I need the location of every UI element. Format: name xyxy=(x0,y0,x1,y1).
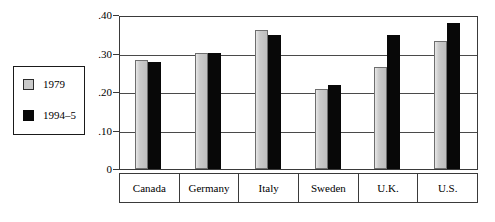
category-label-italy: Italy xyxy=(239,174,299,202)
y-axis-tick-label: 0 xyxy=(107,164,113,175)
legend-label-1994-5: 1994–5 xyxy=(43,110,76,121)
legend-swatch-1994-5 xyxy=(23,110,34,121)
category-label-sweden: Sweden xyxy=(299,174,359,202)
bar-italy-1979 xyxy=(255,30,268,169)
legend-item-1979: 1979 xyxy=(23,79,65,90)
legend-item-1994-5: 1994–5 xyxy=(23,110,76,121)
y-axis-tick-label: .40 xyxy=(98,10,112,21)
bar-sweden-1994-5 xyxy=(328,85,341,169)
bar-sweden-1979 xyxy=(315,89,328,169)
bar-canada-1994-5 xyxy=(148,62,161,169)
bar-group xyxy=(359,17,419,169)
bar-u-s--1979 xyxy=(434,41,447,169)
chart-legend: 1979 1994–5 xyxy=(13,66,85,135)
bar-germany-1979 xyxy=(195,53,208,169)
category-label-canada: Canada xyxy=(120,174,180,202)
category-label-u-s: U.S. xyxy=(418,174,477,202)
bar-group xyxy=(300,17,360,169)
bar-u-s--1994-5 xyxy=(447,23,460,169)
bar-chart-figure: 1979 1994–5 0.10.20.30.40 CanadaGermanyI… xyxy=(0,0,495,222)
bar-group xyxy=(240,17,300,169)
bar-u-k--1979 xyxy=(374,67,387,169)
y-axis-tick-label: .10 xyxy=(98,126,112,137)
bar-group xyxy=(120,17,180,169)
bar-group xyxy=(180,17,240,169)
y-axis-tick-label: .30 xyxy=(98,49,112,60)
bar-italy-1994-5 xyxy=(268,35,281,169)
legend-label-1979: 1979 xyxy=(43,79,65,90)
bar-germany-1994-5 xyxy=(208,53,221,169)
category-label-germany: Germany xyxy=(180,174,240,202)
plot-area xyxy=(119,16,478,170)
y-axis-tick-label: .20 xyxy=(98,87,112,98)
category-label-row: CanadaGermanyItalySwedenU.K.U.S. xyxy=(119,173,478,203)
legend-swatch-1979 xyxy=(23,79,34,90)
bar-u-k--1994-5 xyxy=(387,35,400,169)
category-label-u-k: U.K. xyxy=(359,174,419,202)
bar-canada-1979 xyxy=(135,60,148,169)
bar-group xyxy=(419,17,479,169)
